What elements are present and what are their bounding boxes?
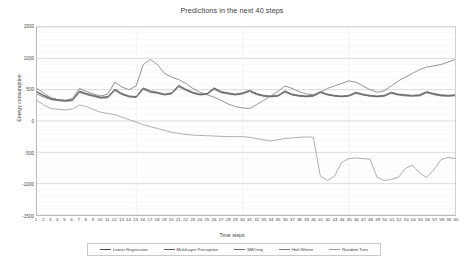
x-tick-label: 59	[446, 217, 451, 222]
x-tick-label: 49	[375, 217, 380, 222]
x-tick-label: 30	[240, 217, 245, 222]
y-tick-label: 1000	[2, 55, 34, 60]
legend-item[interactable]: Linear Regression	[100, 247, 148, 252]
x-tick-label: 11	[105, 217, 110, 222]
chart-title: Predictions in the next 40 steps	[0, 6, 464, 15]
x-tick-label: 22	[183, 217, 188, 222]
chart-legend: Linear RegressionMultiLayer PerceptionSM…	[87, 243, 381, 256]
x-tick-label: 9	[92, 217, 94, 222]
x-tick-label: 23	[190, 217, 195, 222]
x-tick-label: 32	[254, 217, 259, 222]
chart-figure: Predictions in the next 40 steps Energy …	[0, 0, 464, 272]
x-tick-label: 10	[98, 217, 103, 222]
x-tick-label: 28	[226, 217, 231, 222]
x-tick-label: 41	[318, 217, 323, 222]
x-tick-label: 3	[49, 217, 51, 222]
legend-label: MultiLayer Perception	[177, 247, 219, 252]
series-line	[37, 87, 455, 101]
x-tick-label: 5	[63, 217, 65, 222]
x-tick-label: 44	[340, 217, 345, 222]
y-tick-label: -1000	[2, 182, 34, 187]
plot-wrapper	[36, 26, 456, 216]
x-tick-label: 51	[389, 217, 394, 222]
x-tick-label: 36	[283, 217, 288, 222]
x-tick-label: 6	[70, 217, 72, 222]
x-tick-label: 20	[169, 217, 174, 222]
x-tick-label: 18	[155, 217, 160, 222]
x-tick-label: 17	[147, 217, 152, 222]
x-tick-label: 29	[233, 217, 238, 222]
x-tick-label: 7	[77, 217, 79, 222]
legend-item[interactable]: MultiLayer Perception	[164, 247, 219, 252]
x-tick-label: 4	[56, 217, 58, 222]
legend-item[interactable]: Holt-Winter	[279, 247, 314, 252]
legend-item[interactable]: SMOreg	[234, 247, 263, 252]
y-tick-label: 1500	[2, 24, 34, 29]
x-tick-label: 53	[404, 217, 409, 222]
x-tick-label: 19	[162, 217, 167, 222]
legend-label: Holt-Winter	[292, 247, 314, 252]
x-tick-label: 52	[397, 217, 402, 222]
legend-line-icon	[100, 249, 111, 250]
y-tick-label: 0	[2, 119, 34, 124]
legend-label: Random Tree	[342, 247, 368, 252]
x-tick-label: 25	[204, 217, 209, 222]
x-tick-label: 43	[333, 217, 338, 222]
x-tick-label: 8	[85, 217, 87, 222]
legend-line-icon	[329, 249, 340, 250]
x-tick-label: 14	[126, 217, 131, 222]
x-tick-label: 26	[212, 217, 217, 222]
x-tick-label: 39	[304, 217, 309, 222]
y-tick-label: -500	[2, 150, 34, 155]
plot-area	[36, 26, 456, 216]
y-tick-label: 500	[2, 87, 34, 92]
x-tick-label: 48	[368, 217, 373, 222]
x-tick-label: 24	[197, 217, 202, 222]
series-line	[37, 100, 455, 180]
x-tick-label: 58	[439, 217, 444, 222]
x-tick-label: 57	[432, 217, 437, 222]
x-tick-label: 35	[276, 217, 281, 222]
legend-label: Linear Regression	[113, 247, 148, 252]
x-tick-label: 16	[140, 217, 145, 222]
x-tick-label: 60	[454, 217, 459, 222]
legend-label: SMOreg	[247, 247, 263, 252]
plot-svg	[37, 27, 455, 215]
x-tick-label: 31	[247, 217, 252, 222]
x-tick-label: 37	[290, 217, 295, 222]
x-tick-label: 45	[347, 217, 352, 222]
x-tick-label: 50	[382, 217, 387, 222]
x-axis-label: Time steps	[0, 232, 464, 238]
legend-line-icon	[279, 249, 290, 250]
x-tick-label: 38	[297, 217, 302, 222]
legend-line-icon	[164, 249, 175, 250]
x-axis-ticks: 1234567891011121314151617181920212223242…	[36, 217, 456, 229]
legend-item[interactable]: Random Tree	[329, 247, 368, 252]
x-tick-label: 1	[35, 217, 37, 222]
y-tick-label: -1500	[2, 214, 34, 219]
x-tick-label: 13	[119, 217, 124, 222]
x-tick-label: 54	[411, 217, 416, 222]
x-tick-label: 40	[311, 217, 316, 222]
series-line	[37, 60, 455, 109]
x-tick-label: 55	[418, 217, 423, 222]
x-tick-label: 12	[112, 217, 117, 222]
x-tick-label: 34	[268, 217, 273, 222]
x-tick-label: 42	[325, 217, 330, 222]
x-tick-label: 46	[354, 217, 359, 222]
x-tick-label: 21	[176, 217, 181, 222]
x-tick-label: 33	[261, 217, 266, 222]
legend-line-icon	[234, 249, 245, 250]
x-tick-label: 47	[361, 217, 366, 222]
x-tick-label: 15	[133, 217, 138, 222]
x-tick-label: 27	[219, 217, 224, 222]
x-tick-label: 2	[42, 217, 44, 222]
y-axis-ticks: 150010005000-500-1000-1500	[0, 26, 34, 216]
x-tick-label: 56	[425, 217, 430, 222]
